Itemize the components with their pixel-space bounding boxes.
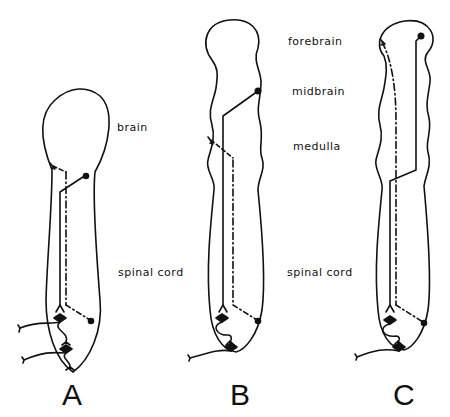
panel-b-ascending-tract xyxy=(208,137,257,320)
panel-b-spinal-neuron xyxy=(255,318,262,325)
panel-c-descending-tract xyxy=(386,37,420,312)
panel-c-spinal-neuron xyxy=(421,320,428,327)
panel-a-outline xyxy=(43,89,109,372)
panel-a-descending-tract xyxy=(56,175,86,312)
neural-evolution-diagram xyxy=(0,0,450,417)
panel-c-outline xyxy=(376,21,433,350)
panel-letter-b: B xyxy=(230,378,250,412)
panel-c-forebrain-neuron xyxy=(418,33,425,40)
panel-letter-c: C xyxy=(393,378,415,412)
panel-a-spinal-neuron xyxy=(88,318,95,325)
label-brain: brain xyxy=(117,121,148,134)
label-medulla: medulla xyxy=(293,140,341,153)
panel-b-outline xyxy=(206,20,264,352)
panel-b-midbrain-neuron xyxy=(255,88,262,95)
panel-a-motor-neurons xyxy=(18,314,74,370)
label-midbrain: midbrain xyxy=(292,85,345,98)
panel-letter-a: A xyxy=(62,378,82,412)
label-forebrain: forebrain xyxy=(288,35,342,48)
label-spinal-cord-a: spinal cord xyxy=(118,266,184,279)
panel-a-brain-neuron xyxy=(83,173,90,180)
label-spinal-cord-b: spinal cord xyxy=(287,266,353,279)
panel-b-descending-tract xyxy=(219,91,258,312)
panel-b-motor-neurons xyxy=(188,314,237,361)
panel-a-ascending-tract xyxy=(50,163,90,320)
